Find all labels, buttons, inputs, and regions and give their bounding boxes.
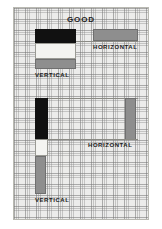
label-horizontal-bottom: HORIZONTAL (88, 142, 132, 148)
top-gray-horizontal-bar (93, 29, 138, 41)
figure-plate: GOOD HORIZONTAL VERTICAL HORIZONTAL (13, 7, 149, 220)
label-horizontal-top: HORIZONTAL (93, 44, 137, 50)
top-gray-lower-bar (35, 59, 76, 69)
label-vertical-top: VERTICAL (35, 72, 69, 78)
label-vertical-bottom: VERTICAL (35, 197, 69, 203)
bottom-dark-vertical-bar (35, 98, 48, 139)
top-horizontal-rule (76, 41, 138, 42)
top-white-horizontal-bar (35, 43, 76, 59)
bottom-gray-lower-vertical-bar (35, 156, 46, 194)
bottom-gray-vertical-bar (125, 98, 136, 140)
top-dark-horizontal-bar (35, 29, 76, 43)
bottom-top-rule (35, 98, 138, 99)
bottom-baseline-rule (35, 139, 138, 140)
bottom-white-vertical-bar (35, 139, 48, 156)
figure-root: GOOD HORIZONTAL VERTICAL HORIZONTAL (0, 0, 162, 229)
figure-title: GOOD (14, 15, 148, 24)
